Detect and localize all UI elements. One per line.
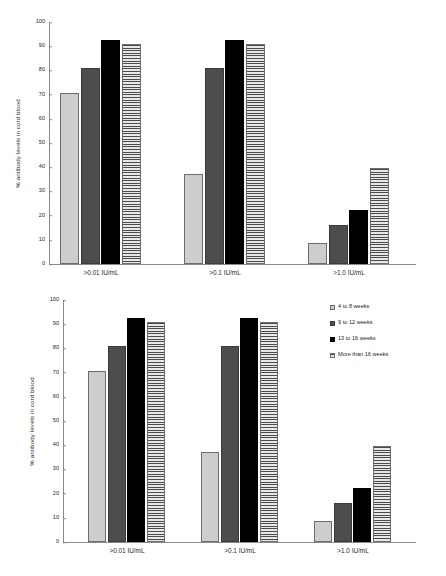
y-axis-tick-label: 70	[39, 92, 49, 98]
y-axis-tick-label: 70	[53, 370, 63, 376]
legend-item-label: 13 to 16 weeks	[338, 336, 376, 342]
y-axis-tick-label: 20	[39, 213, 49, 219]
x-axis-category-label: >1.0 IU/mL	[337, 548, 368, 554]
bottom-bar-chart-figure: % antibody levels in cord blood 01020304…	[0, 288, 446, 576]
x-axis-category-label: >1.0 IU/mL	[333, 270, 364, 276]
bar	[349, 210, 368, 264]
y-axis-tick-label: 60	[39, 116, 49, 122]
y-axis-tick-label: 100	[36, 19, 49, 25]
y-axis-title: % antibody levels in cord blood	[14, 22, 21, 265]
legend-item: 4 to 8 weeks	[330, 299, 388, 315]
legend-item: 9 to 12 weeks	[330, 315, 388, 331]
y-axis-tick-label: 40	[53, 442, 63, 448]
bar	[127, 318, 145, 542]
y-axis-tickmark	[63, 542, 66, 543]
legend-item-label: 9 to 12 weeks	[338, 320, 373, 326]
bar-groups	[50, 22, 416, 264]
bar	[353, 488, 371, 542]
y-axis-tick-label: 60	[53, 394, 63, 400]
x-axis-category-label: >0.1 IU/mL	[224, 548, 255, 554]
y-axis-tick-label: 20	[53, 491, 63, 497]
x-axis-category-label: >0.1 IU/mL	[209, 270, 240, 276]
bar-group	[60, 22, 142, 264]
y-axis-tick-label: 90	[53, 321, 63, 327]
x-axis-category-label: >0.01 IU/mL	[84, 270, 119, 276]
bar	[314, 521, 332, 542]
bar	[334, 503, 352, 542]
y-axis-tick-label: 80	[53, 346, 63, 352]
y-axis-tick-label: 80	[39, 68, 49, 74]
y-axis-tick-label: 10	[39, 237, 49, 243]
bar	[88, 371, 106, 542]
y-axis-tick-label: 50	[39, 140, 49, 146]
x-axis-line	[49, 264, 416, 265]
y-axis-tick-label: 30	[39, 189, 49, 195]
legend-item: More than 16 weeks	[330, 347, 388, 363]
bar	[373, 446, 391, 542]
y-axis-tick-label: 0	[42, 261, 49, 267]
bar	[60, 93, 79, 264]
bar	[308, 243, 327, 264]
bar-group	[308, 22, 390, 264]
top-bar-chart-figure: % antibody levels in cord blood 01020304…	[0, 0, 446, 288]
y-axis-tick-label: 30	[53, 467, 63, 473]
y-axis-tick-label: 40	[39, 164, 49, 170]
bar	[184, 174, 203, 264]
y-axis-tick-label: 10	[53, 515, 63, 521]
legend-swatch-icon	[330, 337, 335, 342]
y-axis-tick-label: 50	[53, 418, 63, 424]
y-axis-tick-label: 0	[56, 539, 63, 545]
bar	[122, 44, 141, 264]
bar	[205, 68, 224, 264]
bar	[260, 322, 278, 542]
y-axis-tick-label: 90	[39, 43, 49, 49]
x-axis-line	[63, 542, 416, 543]
bar	[225, 40, 244, 264]
bar	[81, 68, 100, 264]
x-axis-category-label: >0.01 IU/mL	[110, 548, 145, 554]
chart-legend: 4 to 8 weeks9 to 12 weeks13 to 16 weeksM…	[330, 299, 388, 363]
bar-group	[184, 22, 266, 264]
bar	[240, 318, 258, 542]
legend-swatch-icon	[330, 321, 335, 326]
bar	[108, 346, 126, 542]
bar	[370, 168, 389, 264]
legend-item-label: 4 to 8 weeks	[338, 304, 369, 310]
legend-item: 13 to 16 weeks	[330, 331, 388, 347]
bar	[246, 44, 265, 264]
plot-area: 0102030405060708090100	[49, 22, 416, 265]
bar	[329, 225, 348, 264]
bar	[147, 322, 165, 542]
bar	[201, 452, 219, 542]
y-axis-tick-label: 100	[50, 297, 63, 303]
legend-swatch-icon	[330, 305, 335, 310]
y-axis-tickmark	[49, 264, 52, 265]
bar-group	[88, 300, 166, 542]
bar	[101, 40, 120, 264]
bar-group	[201, 300, 279, 542]
legend-item-label: More than 16 weeks	[338, 352, 388, 358]
y-axis-title: % antibody levels in cord blood	[28, 300, 35, 543]
bar	[221, 346, 239, 542]
legend-swatch-icon	[330, 353, 335, 358]
